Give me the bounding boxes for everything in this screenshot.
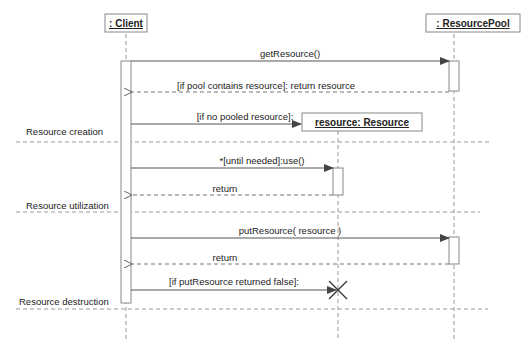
pool-header-label: : ResourcePool — [436, 18, 510, 29]
phase-label-utilization: Resource utilization — [26, 200, 109, 211]
pool-activation-2 — [449, 237, 459, 264]
message-create-label: [if no pooled resource]: — [197, 111, 294, 122]
message-getresource-label: getResource() — [260, 48, 320, 59]
message-destroy-label: [if putResource returned false]: — [169, 276, 299, 287]
client-activation — [121, 61, 131, 303]
message-return-put-label: return — [213, 252, 238, 263]
phase-label-destruction: Resource destruction — [19, 296, 109, 307]
message-return-resource-label: [if pool contains resource]: return reso… — [177, 80, 355, 91]
sequence-diagram: : Client : ResourcePool resource: Resour… — [0, 0, 521, 349]
client-header-label: : Client — [109, 18, 144, 29]
resource-activation — [333, 168, 343, 195]
message-return-use-label: return — [213, 183, 238, 194]
phase-label-creation: Resource creation — [26, 126, 103, 137]
resource-header-label: resource: Resource — [315, 117, 409, 128]
message-putresource-label: putResource( resource ) — [239, 225, 341, 236]
message-use-label: *[until needed]:use() — [219, 155, 304, 166]
pool-activation-1 — [449, 61, 459, 91]
